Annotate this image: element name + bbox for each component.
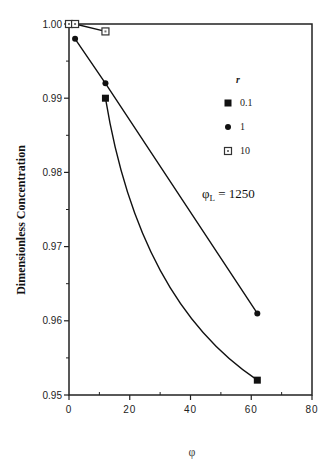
open-square-marker-center	[74, 23, 76, 25]
filled-square-marker	[254, 377, 261, 384]
phi-l-annotation: φL = 1250	[202, 186, 255, 203]
data-series	[66, 21, 261, 384]
legend-marker-filled-circle	[225, 124, 231, 130]
series-r-10	[66, 21, 109, 35]
legend-label: 0.1	[240, 97, 253, 108]
x-tick-label: 80	[305, 404, 318, 415]
filled-circle-marker	[72, 36, 78, 42]
y-tick-label: 0.98	[43, 167, 63, 178]
y-tick-label: 0.97	[43, 241, 63, 252]
open-square-marker-center	[104, 30, 106, 32]
filled-circle-marker	[102, 80, 108, 86]
filled-square-marker	[102, 95, 109, 102]
x-tick-label: 40	[184, 404, 197, 415]
legend-entry: 1	[225, 121, 245, 132]
filled-circle-marker	[254, 310, 260, 316]
x-tick-label: 60	[245, 404, 258, 415]
series-line	[105, 98, 257, 380]
legend-marker-filled-square	[225, 100, 232, 107]
y-axis-label: Dimensionless Concentration	[14, 145, 28, 295]
legend: r0.1110	[225, 74, 253, 156]
open-square-marker-center	[227, 150, 229, 152]
y-tick-label: 0.95	[43, 390, 63, 401]
legend-entry: 0.1	[225, 97, 253, 108]
y-axis-ticks: 0.950.960.970.980.991.00	[43, 19, 69, 401]
y-tick-label: 0.99	[43, 93, 63, 104]
open-square-marker-center	[68, 23, 70, 25]
legend-entry: 10	[225, 145, 251, 156]
plot-frame	[69, 24, 312, 395]
y-tick-label: 0.96	[43, 315, 63, 326]
legend-title: r	[236, 74, 240, 85]
series-r-0.1	[102, 95, 261, 384]
x-axis-label: φ	[189, 445, 196, 459]
x-tick-label: 20	[123, 404, 136, 415]
legend-label: 1	[240, 121, 245, 132]
series-line	[75, 39, 257, 314]
y-tick-label: 1.00	[43, 19, 63, 30]
x-tick-label: 0	[66, 404, 73, 415]
series-r-1	[72, 36, 260, 317]
legend-label: 10	[240, 145, 250, 156]
chart: 0.950.960.970.980.991.00 020406080 r0.11…	[0, 0, 334, 475]
plot-border	[69, 24, 312, 395]
